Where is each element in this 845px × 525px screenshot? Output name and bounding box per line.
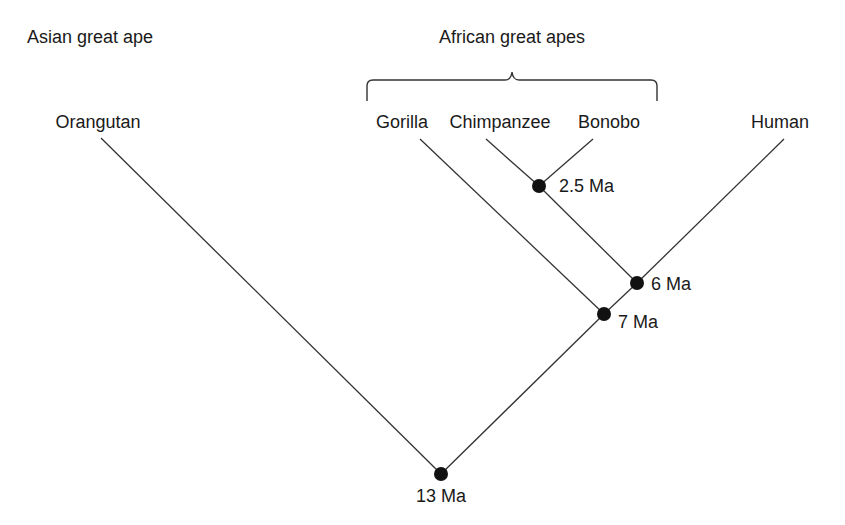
node-label-13ma: 13 Ma	[416, 487, 466, 505]
node-13ma	[434, 467, 448, 481]
taxon-chimpanzee: Chimpanzee	[449, 113, 550, 131]
node-7ma	[597, 307, 611, 321]
taxon-gorilla: Gorilla	[376, 113, 428, 131]
asian-group-label: Asian great ape	[27, 28, 153, 46]
taxon-human: Human	[751, 113, 809, 131]
taxon-bonobo: Bonobo	[578, 113, 640, 131]
node-label-7ma: 7 Ma	[618, 313, 658, 331]
african-apes-bracket	[367, 72, 657, 101]
node-6ma	[630, 276, 644, 290]
branch-6ma-to-2.5ma	[539, 186, 637, 283]
node-2.5ma	[532, 179, 546, 193]
node-label-2.5ma: 2.5 Ma	[559, 177, 614, 195]
branch-root-to-7ma	[441, 314, 604, 474]
node-label-6ma: 6 Ma	[651, 275, 691, 293]
branch-human	[637, 139, 784, 283]
branch-gorilla	[420, 139, 604, 314]
branch-chimpanzee	[486, 139, 539, 186]
taxon-orangutan: Orangutan	[55, 113, 140, 131]
african-group-label: African great apes	[439, 28, 585, 46]
branch-orangutan	[101, 138, 441, 474]
phylogenetic-tree	[0, 0, 845, 525]
